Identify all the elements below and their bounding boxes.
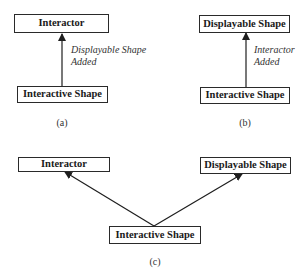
panel-a-arrow-label-line1: Displayable Shape (71, 44, 146, 56)
arrow-c-left (65, 172, 154, 226)
panel-b-displayable-shape-box: Displayable Shape (199, 15, 290, 33)
panel-c-displayable-shape-label: Displayable Shape (204, 160, 287, 171)
diagram-canvas: Interactor Displayable Shape Added Inter… (0, 0, 307, 278)
panel-c-interactive-shape-label: Interactive Shape (115, 230, 194, 241)
panel-b-interactive-shape-box: Interactive Shape (200, 87, 290, 104)
panel-c-interactor-label: Interactor (41, 159, 87, 170)
panel-a-arrow-label-line2: Added (71, 56, 146, 68)
panel-c-displayable-shape-box: Displayable Shape (200, 157, 291, 174)
panel-b-arrow-label-line2: Added (254, 56, 295, 68)
panel-a-interactor-box: Interactor (14, 14, 109, 33)
panel-a-interactor-label: Interactor (38, 18, 84, 29)
panel-c-interactor-box: Interactor (18, 157, 110, 172)
panel-a-caption: (a) (56, 117, 67, 128)
arrow-c-right (154, 174, 242, 226)
panel-a-interactive-shape-label: Interactive Shape (23, 89, 102, 100)
panel-a-arrow-label: Displayable Shape Added (71, 44, 146, 68)
panel-c-caption: (c) (149, 256, 160, 267)
panel-b-arrow-label-line1: Interactor (254, 44, 295, 56)
panel-b-displayable-shape-label: Displayable Shape (203, 19, 286, 30)
panel-b-interactive-shape-label: Interactive Shape (205, 90, 284, 101)
panel-a-interactive-shape-box: Interactive Shape (17, 86, 108, 103)
panel-b-arrow-label: Interactor Added (254, 44, 295, 68)
panel-b-caption: (b) (239, 117, 251, 128)
panel-c-interactive-shape-box: Interactive Shape (109, 226, 201, 244)
